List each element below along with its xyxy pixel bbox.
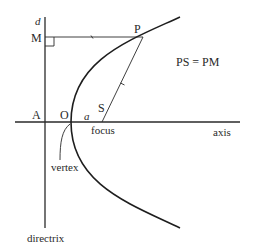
equation-label: PS = PM bbox=[176, 55, 220, 69]
label-m: M bbox=[31, 31, 42, 45]
label-focus: focus bbox=[91, 124, 115, 136]
parabola-diagram: d M P PS = PM A O a S focus axis vertex … bbox=[0, 0, 253, 252]
label-d: d bbox=[35, 15, 41, 27]
label-axis: axis bbox=[213, 126, 231, 138]
right-angle-marker bbox=[45, 37, 54, 46]
label-a-point: A bbox=[32, 108, 41, 122]
segment-ps bbox=[102, 37, 143, 122]
label-directrix: directrix bbox=[27, 232, 65, 244]
label-vertex: vertex bbox=[51, 161, 79, 173]
label-s: S bbox=[98, 101, 105, 115]
vertex-pointer bbox=[60, 124, 70, 160]
tick-mark-ps bbox=[121, 83, 125, 85]
label-p: P bbox=[134, 22, 141, 36]
label-a-distance: a bbox=[84, 110, 90, 122]
label-o: O bbox=[60, 108, 69, 122]
